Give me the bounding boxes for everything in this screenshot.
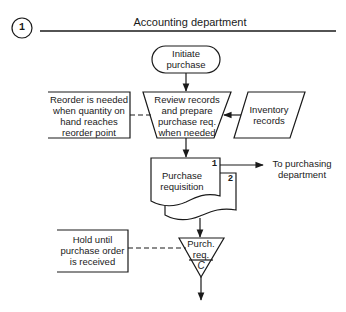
diagram-title: Accounting department bbox=[120, 16, 260, 28]
start-line-2: purchase bbox=[152, 59, 220, 70]
reorder-line-3: hand reaches bbox=[48, 116, 130, 127]
file-line-2: req. bbox=[181, 249, 221, 260]
copy-number-1: 1 bbox=[210, 159, 219, 170]
hold-note-label: Hold until purchase order is received bbox=[57, 234, 128, 267]
inventory-label: Inventory records bbox=[240, 104, 298, 126]
requisition-line-1: Purchase bbox=[151, 170, 213, 181]
to-purchasing-label: To purchasing department bbox=[264, 158, 340, 180]
reorder-line-2: when quantity on bbox=[48, 105, 130, 116]
reorder-line-1: Reorder is needed bbox=[48, 94, 130, 105]
start-line-1: Initiate bbox=[152, 48, 220, 59]
flowchart-canvas: 1 Accounting department Initiate purchas… bbox=[0, 0, 346, 312]
file-line-1: Purch. bbox=[181, 238, 221, 249]
review-line-1: Review records bbox=[143, 94, 231, 105]
section-number: 1 bbox=[12, 22, 32, 33]
copy-number-2: 2 bbox=[226, 174, 235, 185]
file-order-code: C bbox=[193, 260, 209, 271]
inventory-line-2: records bbox=[240, 115, 298, 126]
hold-line-3: is received bbox=[57, 256, 128, 267]
review-line-3: purchase req. bbox=[143, 116, 231, 127]
review-label: Review records and prepare purchase req.… bbox=[143, 94, 231, 138]
to-purchasing-line-2: department bbox=[264, 169, 340, 180]
review-line-4: when needed bbox=[143, 127, 231, 138]
review-line-2: and prepare bbox=[143, 105, 231, 116]
to-purchasing-line-1: To purchasing bbox=[264, 158, 340, 169]
inventory-line-1: Inventory bbox=[240, 104, 298, 115]
flowchart-svg bbox=[0, 0, 346, 312]
start-terminal-label: Initiate purchase bbox=[152, 48, 220, 70]
requisition-label: Purchase requisition bbox=[151, 170, 213, 192]
hold-line-1: Hold until bbox=[57, 234, 128, 245]
file-label: Purch. req. bbox=[181, 238, 221, 260]
hold-line-2: purchase order bbox=[57, 245, 128, 256]
reorder-note-label: Reorder is needed when quantity on hand … bbox=[48, 94, 130, 138]
reorder-line-4: reorder point bbox=[48, 127, 130, 138]
requisition-line-2: requisition bbox=[151, 181, 213, 192]
